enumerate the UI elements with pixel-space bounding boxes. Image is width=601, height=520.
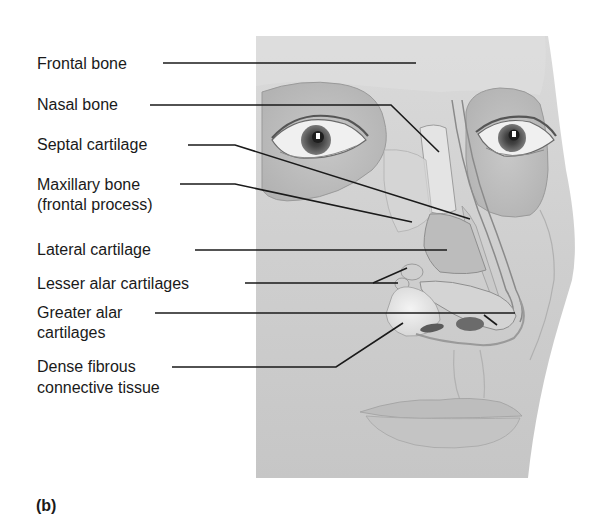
label-greater-alar-cartilages: Greater alar — [37, 303, 122, 322]
label-dense-fibrous-sub: connective tissue — [37, 378, 160, 397]
label-frontal-bone: Frontal bone — [37, 54, 127, 73]
label-lesser-alar-cartilages: Lesser alar cartilages — [37, 274, 189, 293]
label-greater-alar-cartilages-sub: cartilages — [37, 323, 105, 342]
label-maxillary-bone-sub: (frontal process) — [37, 195, 153, 214]
label-lateral-cartilage: Lateral cartilage — [37, 240, 151, 259]
label-dense-fibrous: Dense fibrous — [37, 357, 136, 376]
panel-label: (b) — [36, 497, 56, 515]
nose-anatomy-figure: Frontal bone Nasal bone Septal cartilage… — [0, 0, 601, 520]
label-nasal-bone: Nasal bone — [37, 95, 118, 114]
label-maxillary-bone: Maxillary bone — [37, 175, 140, 194]
label-septal-cartilage: Septal cartilage — [37, 135, 147, 154]
lesser-alar-shape-1 — [401, 264, 423, 280]
face-illustration — [0, 0, 601, 520]
nostril-right — [456, 317, 484, 331]
